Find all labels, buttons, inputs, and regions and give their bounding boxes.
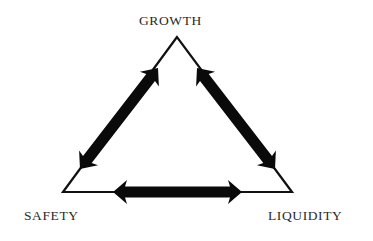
diagram-canvas: GROWTH SAFETY LIQUIDITY — [0, 0, 373, 241]
arrow-safety-growth — [79, 68, 159, 169]
triangle-outline — [63, 37, 292, 192]
double-arrow-shape — [196, 68, 276, 169]
label-safety: SAFETY — [24, 209, 79, 223]
double-arrow-shape — [113, 180, 242, 204]
label-growth: GROWTH — [139, 14, 202, 28]
tradeoff-triangle — [0, 0, 373, 241]
double-arrow-shape — [79, 68, 159, 169]
arrow-growth-liquidity — [196, 68, 276, 169]
arrow-safety-liquidity — [113, 180, 242, 204]
label-liquidity: LIQUIDITY — [268, 209, 342, 223]
